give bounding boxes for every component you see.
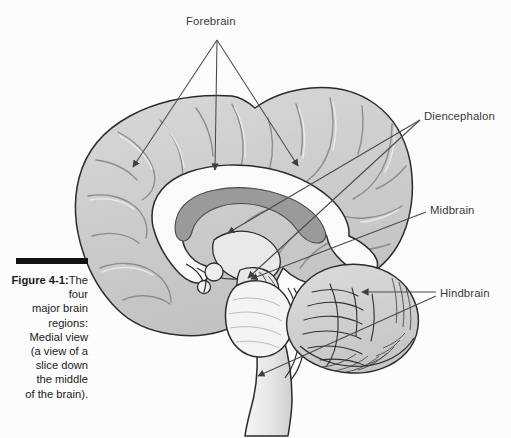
figure-caption: Figure 4-1:The four major brain regions:…: [8, 258, 88, 401]
pons: [225, 281, 293, 357]
figure-page: Forebrain Diencephalon Midbrain Hindbrai…: [0, 0, 511, 438]
caption-text-wrapper: Figure 4-1:The four major brain regions:…: [8, 273, 88, 401]
label-midbrain: Midbrain: [430, 204, 474, 216]
label-diencephalon: Diencephalon: [424, 110, 495, 122]
label-forebrain: Forebrain: [186, 15, 236, 27]
caption-figure-number: Figure 4-1:: [12, 274, 69, 286]
caption-rule: [16, 258, 88, 264]
hypothalamus: [205, 263, 223, 281]
label-hindbrain: Hindbrain: [440, 287, 490, 299]
caption-body: The four major brain regions: Medial vie…: [25, 274, 88, 400]
cerebellum-group: [287, 264, 419, 373]
